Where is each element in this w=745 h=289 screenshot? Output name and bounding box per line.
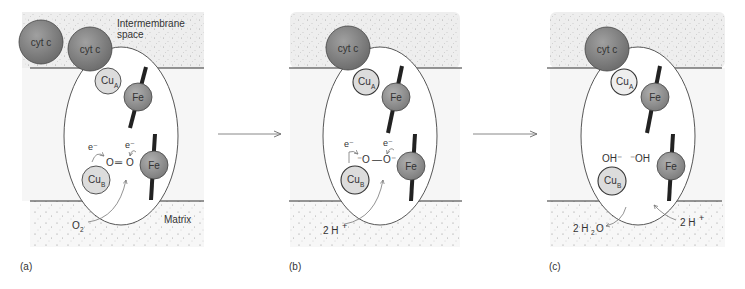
cu-b: Cu B: [598, 167, 626, 195]
cu-a: Cu A: [611, 69, 637, 95]
panel-caption-a: (a): [20, 261, 32, 272]
cyt-c-2: cyt c: [68, 27, 112, 71]
svg-text:Cu: Cu: [101, 75, 114, 86]
cu-b: Cu B: [341, 166, 369, 194]
svg-text:Fe: Fe: [405, 161, 417, 172]
svg-text:Fe: Fe: [390, 92, 402, 103]
svg-text:+: +: [342, 221, 347, 231]
svg-text:2: 2: [80, 226, 84, 233]
svg-text:O: O: [126, 157, 134, 168]
panel-a: Intermembrane space cyt c cyt c Cu A Fe …: [19, 12, 204, 272]
cyt-c: cyt c: [326, 26, 370, 70]
cu-a: Cu A: [353, 69, 379, 95]
svg-text:Fe: Fe: [665, 161, 677, 172]
svg-text:O⁻: O⁻: [383, 154, 396, 165]
enzyme-outline: [64, 47, 178, 225]
svg-text:+: +: [699, 213, 704, 223]
fe-bottom: Fe: [657, 152, 685, 180]
svg-text:Fe: Fe: [148, 160, 160, 171]
panel-c: cyt c Cu A Fe Fe Cu B OH⁻ ⁻OH 2 H 2: [547, 12, 725, 272]
panel-b: cyt c Cu A Fe Fe Cu B ⁻O — O⁻ e⁻ e⁻: [289, 12, 462, 272]
oxygen-molecule: O ═ O: [106, 157, 134, 168]
svg-text:O: O: [72, 220, 80, 231]
cytochrome-oxidase-diagram: Intermembrane space cyt c cyt c Cu A Fe …: [0, 0, 745, 289]
electron-label-1: e⁻: [344, 139, 354, 149]
svg-text:A: A: [629, 83, 634, 90]
svg-text:2 H: 2 H: [680, 217, 696, 228]
cyt-c-1: cyt c: [19, 20, 63, 64]
fe-bottom: Fe: [397, 152, 425, 180]
svg-text:B: B: [617, 182, 621, 189]
cyt-c: cyt c: [585, 27, 629, 71]
svg-text:⁻OH: ⁻OH: [630, 153, 650, 164]
svg-text:B: B: [360, 181, 364, 188]
fe-top: Fe: [641, 83, 669, 111]
svg-text:cyt c: cyt c: [31, 37, 52, 48]
fe-top: Fe: [124, 83, 152, 111]
svg-text:O: O: [106, 157, 114, 168]
cu-a: Cu A: [95, 68, 121, 94]
svg-text:Cu: Cu: [358, 76, 371, 87]
electron-label-2: e⁻: [125, 140, 135, 150]
svg-text:⁻O: ⁻O: [357, 154, 370, 165]
svg-text:A: A: [371, 83, 376, 90]
svg-text:2 H: 2 H: [573, 223, 589, 234]
fe-bottom: Fe: [140, 151, 168, 179]
svg-text:Fe: Fe: [649, 92, 661, 103]
svg-text:Cu: Cu: [616, 76, 629, 87]
svg-text:Cu: Cu: [347, 174, 360, 185]
panel-caption-b: (b): [289, 261, 301, 272]
svg-text:cyt c: cyt c: [338, 43, 359, 54]
panel-caption-c: (c): [549, 261, 561, 272]
svg-text:O: O: [596, 223, 604, 234]
svg-text:Fe: Fe: [132, 92, 144, 103]
svg-text:A: A: [114, 82, 119, 89]
svg-text:cyt c: cyt c: [80, 44, 101, 55]
enzyme-outline: [323, 47, 437, 225]
enzyme-outline: [581, 47, 695, 225]
matrix-label: Matrix: [164, 214, 191, 225]
svg-text:2 H: 2 H: [323, 225, 339, 236]
svg-text:2: 2: [591, 229, 595, 236]
svg-text:Cu: Cu: [604, 175, 617, 186]
svg-text:B: B: [101, 181, 105, 188]
peroxide-intermediate: ⁻O — O⁻: [357, 154, 396, 165]
svg-text:Cu: Cu: [88, 174, 101, 185]
intermembrane-label-2: space: [117, 29, 144, 40]
intermembrane-label-1: Intermembrane: [117, 18, 185, 29]
fe-top: Fe: [382, 83, 410, 111]
svg-text:—: —: [372, 154, 382, 165]
svg-text:═: ═: [114, 157, 123, 168]
cu-b: Cu B: [82, 166, 110, 194]
svg-text:cyt c: cyt c: [597, 44, 618, 55]
svg-text:OH⁻: OH⁻: [602, 153, 622, 164]
electron-label-2: e⁻: [383, 138, 393, 148]
electron-label-1: e⁻: [88, 142, 98, 152]
